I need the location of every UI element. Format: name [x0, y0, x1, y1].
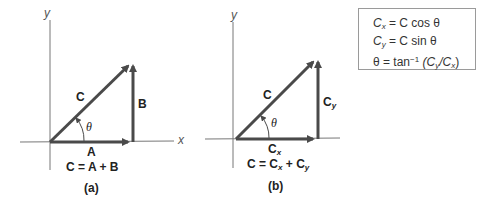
panel-a-y-label: y [44, 7, 50, 19]
panel-a-vector-b-label: B [138, 98, 147, 110]
panel-b-vector-cx-label: Cx [268, 143, 281, 157]
panel-b-vector-c-label: C [263, 89, 272, 101]
panel-b-y-label: y [231, 9, 237, 21]
formula-line-1: Cx = C cos θ [373, 16, 475, 34]
panel-a-equation: C = A + B [66, 161, 118, 173]
panel-b-equation: C = Cx + Cy [247, 158, 309, 172]
panel-b-caption: (b) [268, 180, 283, 192]
panel-a-caption: (a) [84, 182, 99, 194]
panel-a-x-label: x [178, 134, 184, 146]
angle-arc-a [76, 118, 84, 141]
panel-b-vector-cy-label: Cy [323, 96, 336, 110]
panel-b-angle-label: θ [271, 117, 277, 129]
angle-arc-b [261, 116, 269, 138]
panel-a-vector-a-label: A [87, 146, 96, 158]
formula-line-2: Cy = C sin θ [373, 34, 475, 52]
panel-a-graphics [20, 20, 174, 170]
formula-box: Cx = C cos θ Cy = C sin θ θ = tan−1 (Cy/… [358, 8, 476, 70]
formula-line-3: θ = tan−1 (Cy/Cx) [373, 52, 475, 73]
panel-a-vector-c-label: C [76, 91, 85, 103]
panel-a-angle-label: θ [86, 121, 92, 133]
